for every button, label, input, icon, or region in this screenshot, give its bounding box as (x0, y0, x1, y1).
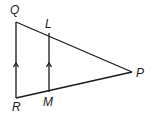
label-M: M (43, 95, 53, 109)
label-Q: Q (10, 3, 19, 17)
label-P: P (136, 66, 144, 80)
segment-RP (16, 72, 132, 98)
label-L: L (45, 17, 52, 31)
triangle-diagram: Q L P R M (0, 0, 154, 115)
label-R: R (12, 100, 21, 114)
segment-QP (16, 22, 132, 72)
